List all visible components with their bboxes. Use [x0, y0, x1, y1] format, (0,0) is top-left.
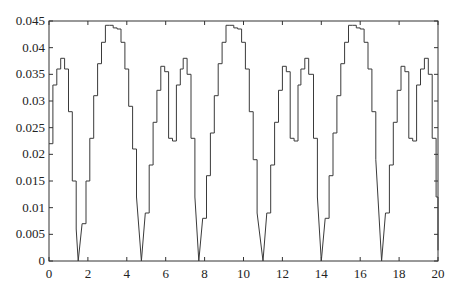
data-series-line [49, 25, 438, 261]
y-tick-label: 0.035 [16, 66, 45, 81]
x-tick-label: 12 [276, 266, 289, 281]
y-tick-label: 0.005 [16, 226, 45, 241]
y-tick-label: 0.03 [22, 93, 45, 108]
y-tick-label: 0.02 [22, 146, 45, 161]
x-tick-label: 20 [432, 266, 445, 281]
x-tick-label: 4 [124, 266, 131, 281]
y-tick-label: 0 [39, 253, 46, 268]
y-tick-label: 0.04 [22, 40, 45, 55]
x-tick-label: 6 [162, 266, 169, 281]
y-tick-label: 0.01 [22, 200, 45, 215]
x-tick-label: 2 [85, 266, 92, 281]
y-tick-label: 0.045 [16, 13, 45, 28]
x-tick-label: 0 [46, 266, 53, 281]
x-tick-label: 18 [393, 266, 406, 281]
x-tick-label: 14 [315, 266, 329, 281]
y-axis-ticks: 00.0050.010.0150.020.0250.030.0350.040.0… [16, 13, 438, 268]
x-tick-label: 8 [201, 266, 208, 281]
y-tick-label: 0.015 [16, 173, 45, 188]
x-tick-label: 10 [237, 266, 250, 281]
x-tick-label: 16 [354, 266, 368, 281]
y-tick-label: 0.025 [16, 120, 45, 135]
line-chart: 00.0050.010.0150.020.0250.030.0350.040.0… [0, 0, 459, 293]
